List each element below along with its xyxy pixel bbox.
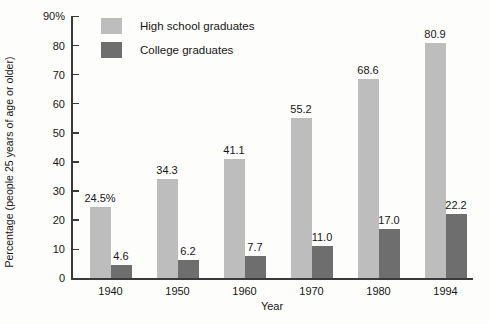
bar-value-label: 34.3 xyxy=(156,164,177,176)
x-tick-label-1940: 1940 xyxy=(98,285,122,297)
bar-1994-high-school: 80.9 xyxy=(425,43,446,279)
x-axis-title: Year xyxy=(71,300,473,312)
bar-value-label: 55.2 xyxy=(290,103,311,115)
bar-value-label: 24.5% xyxy=(84,192,115,204)
bar-1960-college: 7.7 xyxy=(245,256,266,278)
bar-group-1970: 55.211.01970 xyxy=(291,16,333,278)
bar-1940-high-school: 24.5% xyxy=(90,207,111,278)
y-tick-mark xyxy=(73,278,79,279)
bar-1980-college: 17.0 xyxy=(379,229,400,278)
bar-value-label: 4.6 xyxy=(113,250,128,262)
y-tick-mark xyxy=(73,45,79,46)
y-tick-mark xyxy=(73,190,79,191)
bar-value-label: 11.0 xyxy=(312,231,333,243)
bar-value-label: 41.1 xyxy=(223,144,244,156)
y-axis-title-text: Percentage (people 25 years of age or ol… xyxy=(3,56,15,267)
bar-1970-college: 11.0 xyxy=(312,246,333,278)
y-tick-label: 70 xyxy=(53,69,65,81)
legend-item-college: College graduates xyxy=(101,38,254,62)
legend-label-college: College graduates xyxy=(140,44,233,56)
y-tick-label: 10 xyxy=(53,243,65,255)
y-tick-mark xyxy=(73,103,79,104)
bar-group-1980: 68.617.01980 xyxy=(358,16,400,278)
x-tick-label-1994: 1994 xyxy=(433,285,457,297)
y-tick-mark xyxy=(73,249,79,250)
y-tick-label: 80 xyxy=(53,40,65,52)
legend-item-high-school: High school graduates xyxy=(101,14,254,38)
y-tick-mark xyxy=(73,74,79,75)
y-tick-label: 40 xyxy=(53,156,65,168)
bar-value-label: 22.2 xyxy=(445,199,466,211)
bar-value-label: 6.2 xyxy=(180,245,195,257)
y-axis-title: Percentage (people 25 years of age or ol… xyxy=(0,0,18,324)
y-tick-mark xyxy=(73,16,79,17)
bar-value-label: 17.0 xyxy=(378,214,399,226)
y-tick-label: 20 xyxy=(53,214,65,226)
bar-1940-college: 4.6 xyxy=(111,265,132,278)
chart-legend: High school graduates College graduates xyxy=(101,14,254,62)
x-axis-line xyxy=(71,278,473,280)
y-axis-line xyxy=(71,16,73,280)
y-tick-label: 30 xyxy=(53,185,65,197)
bar-1950-high-school: 34.3 xyxy=(157,179,178,279)
bar-group-1994: 80.922.21994 xyxy=(425,16,467,278)
x-tick-label-1970: 1970 xyxy=(299,285,323,297)
bar-value-label: 68.6 xyxy=(357,64,378,76)
y-tick-label: 60 xyxy=(53,98,65,110)
bar-1960-high-school: 41.1 xyxy=(224,159,245,279)
y-tick-label: 0 xyxy=(59,272,65,284)
chart-figure: Percentage (people 25 years of age or ol… xyxy=(0,0,489,324)
x-tick-label-1950: 1950 xyxy=(165,285,189,297)
legend-label-high-school: High school graduates xyxy=(140,20,254,32)
x-tick-label-1980: 1980 xyxy=(366,285,390,297)
y-tick-mark xyxy=(73,219,79,220)
bar-1994-college: 22.2 xyxy=(446,214,467,279)
legend-swatch-college xyxy=(101,42,122,58)
y-tick-label: 50 xyxy=(53,127,65,139)
bar-value-label: 7.7 xyxy=(247,241,262,253)
y-tick-mark xyxy=(73,132,79,133)
bar-1970-high-school: 55.2 xyxy=(291,118,312,279)
bar-value-label: 80.9 xyxy=(424,28,445,40)
legend-swatch-high-school xyxy=(101,18,122,34)
x-tick-label-1960: 1960 xyxy=(232,285,256,297)
y-tick-label: 90% xyxy=(43,10,65,22)
bar-1950-college: 6.2 xyxy=(178,260,199,278)
bar-1980-high-school: 68.6 xyxy=(358,79,379,279)
y-tick-mark xyxy=(73,161,79,162)
